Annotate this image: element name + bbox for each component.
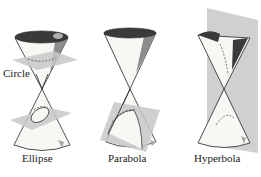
- hyperbola-label: Hyperbola: [194, 152, 240, 164]
- ellipse-label: Ellipse: [22, 152, 53, 164]
- circle-label: Circle: [3, 67, 30, 79]
- conic-sections-figure: Circle Ellipse Parabola Hyperbola: [0, 0, 261, 177]
- parabola-label: Parabola: [108, 152, 146, 164]
- hyperbola-diagram: [198, 8, 258, 153]
- ellipse-diagram: [10, 31, 78, 151]
- parabola-diagram: [100, 28, 160, 152]
